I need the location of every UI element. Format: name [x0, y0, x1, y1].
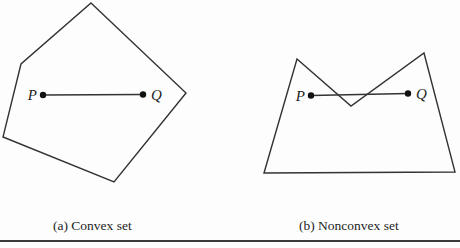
convexity-diagram: P Q P Q — [0, 0, 460, 248]
nonconvex-polygon — [264, 53, 455, 173]
point-p-dot-b — [308, 92, 314, 98]
point-q-dot-a — [140, 91, 146, 97]
point-q-label-a: Q — [151, 87, 162, 103]
point-p-label-b: P — [295, 88, 305, 104]
point-q-label-b: Q — [416, 86, 427, 102]
figure-b-nonconvex-set: P Q — [264, 53, 455, 173]
page-divider-rule — [0, 240, 460, 242]
segment-pq-a — [43, 95, 143, 96]
point-p-label-a: P — [27, 87, 37, 103]
textbook-figure: P Q P Q (a) Convex set (b) Nonconvex set — [0, 0, 460, 248]
caption-nonconvex-set: (b) Nonconvex set — [299, 218, 399, 234]
point-q-dot-b — [405, 90, 411, 96]
figure-a-convex-set: P Q — [3, 3, 186, 182]
caption-convex-set: (a) Convex set — [53, 218, 132, 234]
segment-pq-b — [311, 94, 408, 96]
point-p-dot-a — [40, 92, 46, 98]
